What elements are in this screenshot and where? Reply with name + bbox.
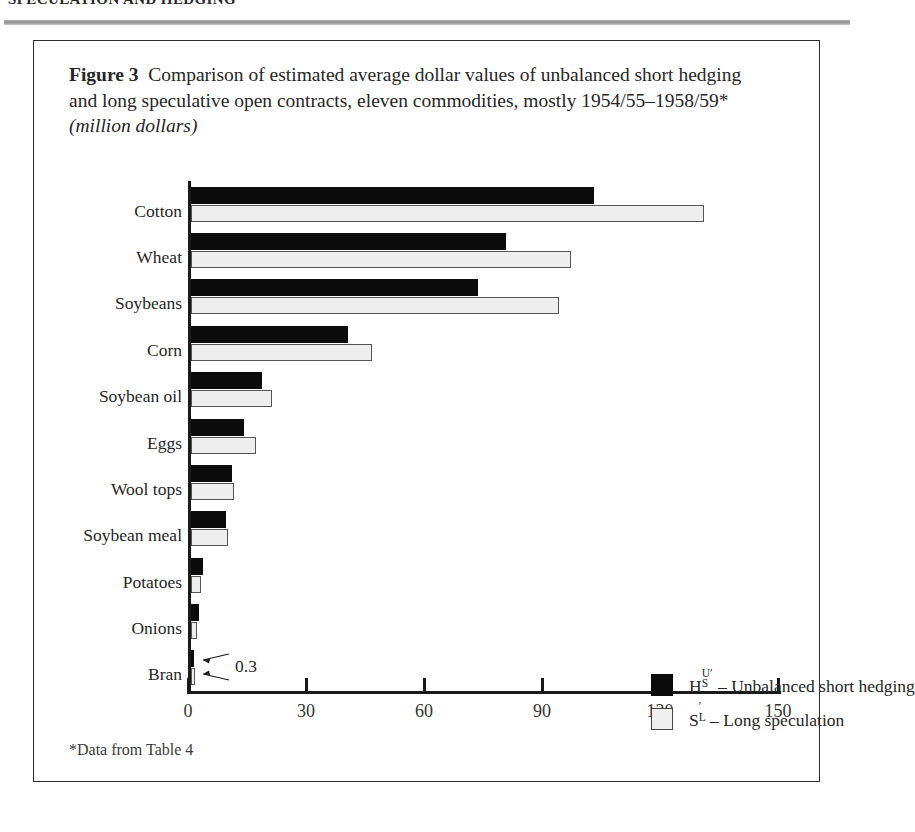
bar-unbalanced_short_hedging-potatoes: [191, 558, 203, 575]
chart-plot-area: 0306090120150 CottonWheatSoybeansCornSoy…: [188, 181, 778, 691]
legend-swatch-light: [651, 708, 673, 730]
bar-unbalanced_short_hedging-eggs: [191, 419, 244, 436]
bar-group-potatoes: Potatoes: [191, 558, 781, 593]
category-label-soybean-oil: Soybean oil: [99, 386, 182, 407]
category-label-soybeans: Soybeans: [115, 293, 182, 314]
chart-legend: HU′S – Unbalanced short hedgingS′L – Lon…: [651, 674, 915, 741]
category-label-cotton: Cotton: [134, 201, 182, 222]
bar-long_speculation-wool-tops: [191, 483, 234, 500]
legend-label: HU′S – Unbalanced short hedging: [689, 674, 915, 697]
bar-long_speculation-soybean-meal: [191, 529, 228, 546]
category-label-corn: Corn: [147, 340, 182, 361]
bar-unbalanced_short_hedging-soybean-meal: [191, 511, 226, 528]
figure-number: 3: [129, 64, 139, 85]
category-label-soybean-meal: Soybean meal: [83, 525, 182, 546]
bar-unbalanced_short_hedging-bran: [191, 650, 194, 667]
bar-unbalanced_short_hedging-wheat: [191, 233, 506, 250]
bar-unbalanced_short_hedging-wool-tops: [191, 465, 232, 482]
page-header: SPECULATION AND HEDGING: [0, 0, 856, 30]
figure-caption: Figure 3 Comparison of estimated average…: [69, 62, 769, 139]
bran-value-annotation: 0.3: [235, 656, 257, 677]
x-tick-label-0: 0: [184, 701, 193, 722]
bar-unbalanced_short_hedging-soybeans: [191, 279, 478, 296]
figure-label: Figure: [69, 64, 124, 85]
bar-long_speculation-eggs: [191, 437, 256, 454]
legend-label: S′L – Long speculation: [689, 708, 844, 731]
bar-group-wheat: Wheat: [191, 233, 781, 268]
bar-unbalanced_short_hedging-corn: [191, 326, 348, 343]
bar-group-eggs: Eggs: [191, 419, 781, 454]
category-label-bran: Bran: [148, 664, 182, 685]
category-label-potatoes: Potatoes: [123, 572, 182, 593]
bar-long_speculation-corn: [191, 344, 372, 361]
bar-long_speculation-onions: [191, 622, 197, 639]
bar-group-cotton: Cotton: [191, 187, 781, 222]
running-head: SPECULATION AND HEDGING: [8, 0, 236, 8]
figure-container: Figure 3 Comparison of estimated average…: [33, 40, 820, 782]
figure-caption-units: (million dollars): [69, 115, 197, 136]
bar-group-soybean-oil: Soybean oil: [191, 372, 781, 407]
figure-footnote: *Data from Table 4: [69, 741, 193, 759]
bar-long_speculation-wheat: [191, 251, 571, 268]
x-tick-label-90: 90: [533, 701, 551, 722]
header-rule: [4, 20, 850, 25]
bar-unbalanced_short_hedging-soybean-oil: [191, 372, 262, 389]
category-label-wool-tops: Wool tops: [111, 479, 182, 500]
bar-group-soybeans: Soybeans: [191, 279, 781, 314]
x-tick-label-60: 60: [415, 701, 433, 722]
bar-unbalanced_short_hedging-cotton: [191, 187, 594, 204]
bar-long_speculation-soybeans: [191, 297, 559, 314]
category-label-wheat: Wheat: [136, 247, 182, 268]
bar-long_speculation-soybean-oil: [191, 390, 272, 407]
bar-unbalanced_short_hedging-onions: [191, 604, 199, 621]
bar-group-wool-tops: Wool tops: [191, 465, 781, 500]
category-label-onions: Onions: [131, 618, 182, 639]
legend-entry-long-speculation: S′L – Long speculation: [651, 708, 915, 731]
legend-entry-unbalanced-short-hedging: HU′S – Unbalanced short hedging: [651, 674, 915, 697]
x-tick-0: [187, 678, 190, 694]
figure-caption-text: Comparison of estimated average dollar v…: [69, 64, 741, 111]
bar-long_speculation-cotton: [191, 205, 704, 222]
legend-swatch-dark: [651, 674, 673, 696]
bar-group-corn: Corn: [191, 326, 781, 361]
category-label-eggs: Eggs: [147, 433, 182, 454]
x-tick-label-30: 30: [297, 701, 315, 722]
bar-group-onions: Onions: [191, 604, 781, 639]
bar-group-soybean-meal: Soybean meal: [191, 511, 781, 546]
bar-long_speculation-potatoes: [191, 576, 201, 593]
